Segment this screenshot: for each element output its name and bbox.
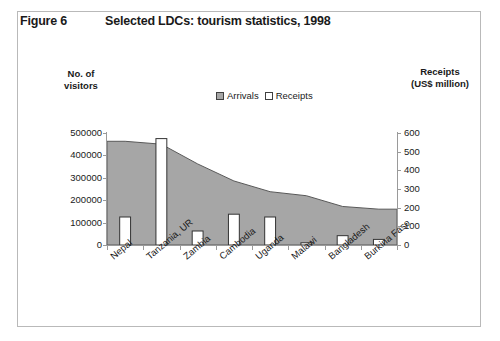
x-axis-tick <box>107 246 108 250</box>
y-axis-right-tick-label: 500 <box>404 147 420 157</box>
x-axis-tick <box>252 246 253 250</box>
figure-number: Figure 6 <box>20 14 105 28</box>
right-axis-title: Receipts (US$ million) <box>388 66 492 89</box>
y-axis-left-tick-label: 0 <box>42 240 102 250</box>
y-axis-right-tick <box>397 189 401 190</box>
figure-title: Selected LDCs: tourism statistics, 1998 <box>105 14 331 28</box>
y-axis-left-tick <box>103 133 107 134</box>
y-axis-left-tick <box>103 155 107 156</box>
x-axis-tick <box>216 246 217 250</box>
y-axis-right-tick <box>397 152 401 153</box>
left-axis-title-line2: visitors <box>44 80 118 92</box>
y-axis-right-tick-label: 100 <box>404 221 420 231</box>
y-axis-right-tick-label: 200 <box>404 203 420 213</box>
y-axis-right-tick <box>397 133 401 134</box>
receipts-bar <box>192 231 203 245</box>
receipts-bar <box>120 217 131 245</box>
x-axis-tick <box>288 246 289 250</box>
x-axis-tick <box>397 246 398 250</box>
plot-area <box>107 133 397 245</box>
arrivals-area <box>107 141 397 245</box>
legend-item-receipts: Receipts <box>265 90 313 101</box>
y-axis-left-tick-label: 100000 <box>42 218 102 228</box>
x-axis-tick <box>143 246 144 250</box>
y-axis-left-tick <box>103 223 107 224</box>
chart-canvas <box>107 133 397 245</box>
right-axis-title-line1: Receipts <box>388 66 492 78</box>
receipts-bar <box>156 139 167 245</box>
receipts-bar <box>228 214 239 245</box>
x-axis-tick <box>361 246 362 250</box>
receipts-bar <box>337 236 348 245</box>
chart-legend: Arrivals Receipts <box>216 90 313 101</box>
figure-header: Figure 6 Selected LDCs: tourism statisti… <box>20 14 331 28</box>
y-axis-left-tick-label: 300000 <box>42 173 102 183</box>
y-axis-right-tick-label: 0 <box>404 240 409 250</box>
y-axis-right-tick-label: 300 <box>404 184 420 194</box>
y-axis-left-tick <box>103 178 107 179</box>
receipts-bar <box>373 239 384 245</box>
right-axis-title-line2: (US$ million) <box>388 78 492 90</box>
y-axis-right-tick-label: 400 <box>404 165 420 175</box>
legend-label-receipts: Receipts <box>276 90 313 101</box>
y-axis-right-tick <box>397 226 401 227</box>
y-axis-left-tick-label: 400000 <box>42 150 102 160</box>
y-axis-left-tick <box>103 200 107 201</box>
left-axis-title: No. of visitors <box>44 68 118 91</box>
y-axis-right-tick <box>397 208 401 209</box>
left-axis-title-line1: No. of <box>44 68 118 80</box>
receipts-bar <box>265 217 276 245</box>
y-axis-left-tick-label: 200000 <box>42 195 102 205</box>
x-axis-tick <box>325 246 326 250</box>
receipts-bar <box>301 243 312 245</box>
y-axis-left-tick-label: 500000 <box>42 128 102 138</box>
y-axis-right-tick-label: 600 <box>404 128 420 138</box>
legend-label-arrivals: Arrivals <box>227 90 259 101</box>
legend-item-arrivals: Arrivals <box>216 90 259 101</box>
y-axis-right-tick <box>397 170 401 171</box>
x-axis-tick <box>180 246 181 250</box>
legend-swatch-arrivals-icon <box>216 92 224 100</box>
legend-swatch-receipts-icon <box>265 92 273 100</box>
